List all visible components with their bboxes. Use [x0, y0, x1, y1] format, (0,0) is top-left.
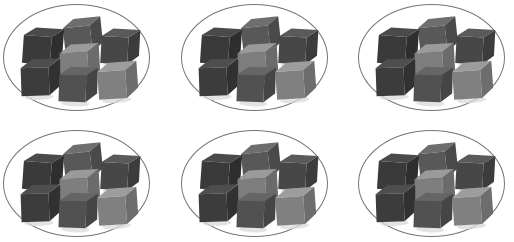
scene-title: Seven cubes grouped in six ovals	[0, 0, 1, 1]
cube-lower-right	[97, 61, 142, 104]
cube-lower-right	[452, 61, 497, 104]
cube-layer	[3, 4, 150, 111]
cube-bottom-center	[413, 66, 456, 107]
cube-lower-right	[452, 187, 497, 230]
cube-layer	[181, 130, 328, 237]
cube-lower-right	[275, 187, 320, 230]
cube-group-2-1: Group 4	[3, 130, 150, 237]
cube-group-1-1: Group 1	[3, 4, 150, 111]
cube-group-1-3: Group 3	[358, 4, 505, 111]
cube-layer	[181, 4, 328, 111]
cube-layer	[358, 130, 505, 237]
cube-bottom-center	[236, 192, 279, 233]
cube-bottom-center	[236, 66, 279, 107]
cube-bottom-center	[413, 192, 456, 233]
cube-group-2-2: Group 5	[181, 130, 328, 237]
cube-layer	[358, 4, 505, 111]
cube-bottom-center	[58, 66, 101, 107]
cube-layer	[3, 130, 150, 237]
cube-groups-scene: Seven cubes grouped in six ovals Group 1…	[0, 0, 514, 242]
cube-bottom-center	[58, 192, 101, 233]
cube-lower-right	[275, 61, 320, 104]
cube-group-1-2: Group 2	[181, 4, 328, 111]
cube-group-2-3: Group 6	[358, 130, 505, 237]
cube-lower-right	[97, 187, 142, 230]
